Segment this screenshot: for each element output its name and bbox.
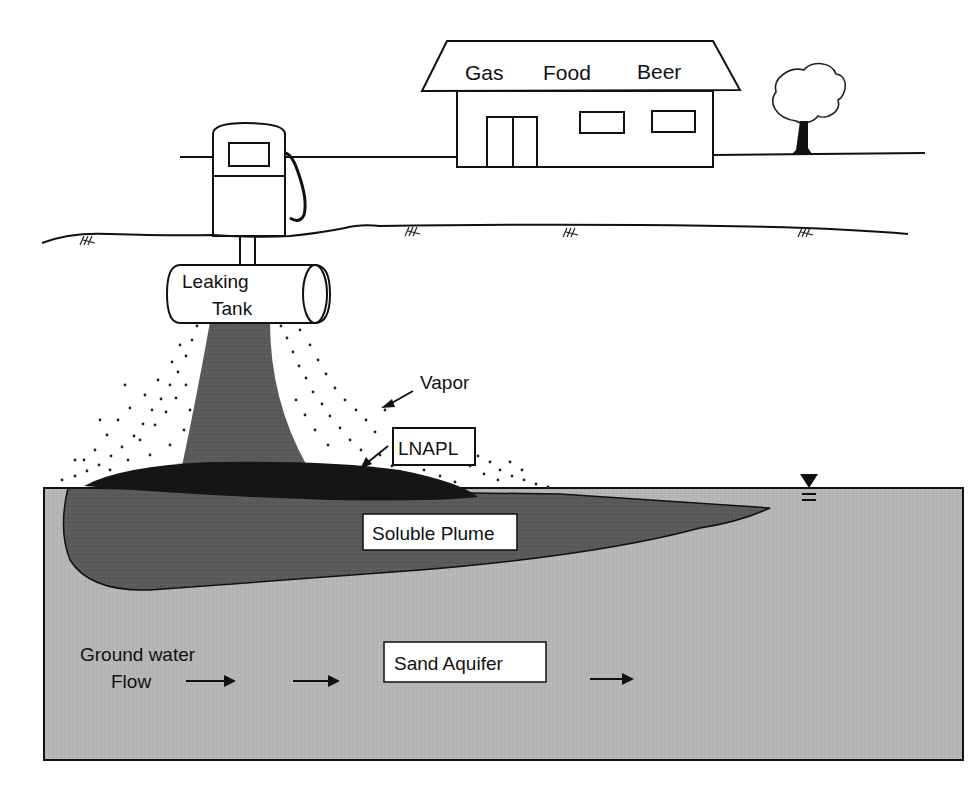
sign-gas: Gas [465, 61, 504, 84]
leak-column [182, 322, 307, 466]
diagram-canvas: Gas Food Beer [0, 0, 973, 799]
window [652, 111, 695, 132]
groundwater-label-line1: Ground water [80, 644, 196, 665]
store-building: Gas Food Beer [422, 41, 740, 167]
soluble-plume-label: Soluble Plume [372, 523, 495, 544]
ground-line [42, 225, 908, 245]
door [487, 117, 537, 167]
tank-label-line1: Leaking [182, 271, 249, 292]
leaking-tank: Leaking Tank [167, 265, 330, 323]
gas-pump [213, 123, 305, 266]
pump-display [229, 143, 269, 166]
sign-food: Food [543, 61, 591, 84]
vapor-arrow-icon [381, 391, 413, 408]
lnapl-arrow-icon [360, 446, 388, 469]
sand-aquifer-label: Sand Aquifer [394, 653, 503, 674]
sign-beer: Beer [637, 60, 681, 83]
tank-label-line2: Tank [212, 298, 253, 319]
groundwater-label-line2: Flow [111, 671, 151, 692]
tree-icon [773, 64, 845, 154]
lnapl-label: LNAPL [398, 438, 458, 459]
pump-hose-icon [285, 153, 305, 220]
vapor-label: Vapor [420, 372, 470, 393]
window [580, 112, 624, 133]
